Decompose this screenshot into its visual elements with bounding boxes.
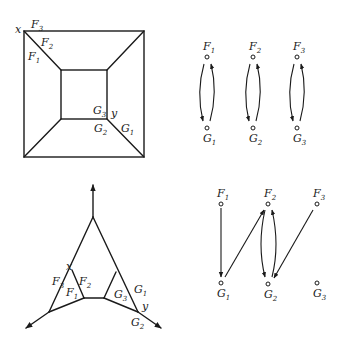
node-F2 bbox=[266, 202, 270, 206]
node-F1 bbox=[219, 202, 223, 206]
diagonal-top-right bbox=[107, 31, 144, 70]
label-G1: G1 bbox=[134, 283, 147, 298]
node-label-F2: F2 bbox=[248, 40, 262, 55]
node-G2 bbox=[251, 126, 255, 130]
edge-G3-F3 bbox=[300, 64, 304, 121]
edge-G1-F1 bbox=[210, 64, 214, 121]
node-G3 bbox=[315, 281, 319, 285]
node-label-F2: F2 bbox=[263, 187, 277, 202]
edge-F2-G2 bbox=[261, 210, 265, 277]
label-G1: G1 bbox=[121, 122, 134, 137]
node-G1 bbox=[205, 126, 209, 130]
node-label-G3: G3 bbox=[313, 287, 327, 302]
edge-F3-G3 bbox=[290, 64, 294, 121]
label-F2: F2 bbox=[78, 275, 92, 290]
node-label-F1: F1 bbox=[216, 187, 229, 202]
node-label-F3: F3 bbox=[292, 40, 306, 55]
label-F1: F1 bbox=[65, 286, 78, 301]
bipartite-graph-bottom: F1 F2 F3 G1 G2 G3 bbox=[216, 187, 327, 303]
edge-F1-G1 bbox=[200, 64, 204, 121]
label-G2: G2 bbox=[131, 316, 145, 331]
node-F1 bbox=[205, 55, 209, 59]
edge-G2-F2 bbox=[256, 64, 260, 121]
label-F3: F3 bbox=[51, 275, 65, 290]
edge-F3-G2 bbox=[274, 210, 313, 278]
node-label-G2: G2 bbox=[264, 288, 278, 303]
edge-F2-G2 bbox=[246, 64, 250, 121]
label-G2: G2 bbox=[94, 122, 108, 137]
edge-G2-F2 bbox=[272, 210, 276, 277]
node-label-G1: G1 bbox=[217, 287, 230, 302]
node-label-G3: G3 bbox=[293, 132, 307, 147]
node-label-F1: F1 bbox=[202, 40, 215, 55]
node-F3 bbox=[295, 55, 299, 59]
diagram-canvas: x F3 F2 F1 G3 y G2 G1 F1 F2 F3 G1 G2 G3 bbox=[0, 0, 340, 348]
node-G2 bbox=[266, 282, 270, 286]
label-G3: G3 bbox=[114, 288, 128, 303]
label-G3: G3 bbox=[93, 104, 107, 119]
node-F2 bbox=[251, 55, 255, 59]
diagonal-bottom-left bbox=[24, 119, 61, 157]
node-F3 bbox=[315, 202, 319, 206]
label-F2: F2 bbox=[40, 36, 54, 51]
node-label-G2: G2 bbox=[249, 132, 263, 147]
label-F3: F3 bbox=[30, 18, 44, 33]
node-label-F3: F3 bbox=[312, 187, 326, 202]
square-graph: x F3 F2 F1 G3 y G2 G1 bbox=[15, 18, 144, 157]
ray-left bbox=[26, 312, 49, 328]
label-F1: F1 bbox=[27, 50, 40, 65]
label-x: x bbox=[15, 23, 22, 36]
triangle-graph: x F3 F2 F1 G3 G1 y G2 bbox=[26, 185, 161, 331]
node-G1 bbox=[219, 281, 223, 285]
edge-G1-F2 bbox=[225, 210, 264, 277]
label-x: x bbox=[66, 260, 73, 273]
bipartite-graph-top: F1 F2 F3 G1 G2 G3 bbox=[200, 40, 307, 147]
node-G3 bbox=[295, 126, 299, 130]
label-y: y bbox=[110, 107, 118, 120]
label-y: y bbox=[141, 300, 149, 313]
node-label-G1: G1 bbox=[203, 132, 216, 147]
